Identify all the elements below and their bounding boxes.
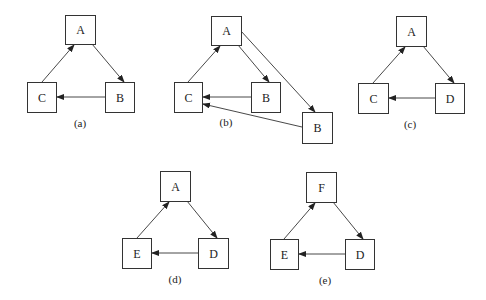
- edge-a-to-b: [238, 45, 269, 82]
- node-label: C: [184, 91, 192, 105]
- node-d: D: [346, 240, 375, 270]
- node-b: B: [303, 113, 333, 144]
- edge-a-to-d: [423, 46, 454, 83]
- node-c: C: [359, 84, 389, 114]
- node-d: D: [436, 84, 465, 114]
- diagram-a: ACB(a): [28, 16, 135, 131]
- diagram-canvas: ACB(a)ACBB(b)ACD(c)AED(d)FED(e): [0, 0, 486, 300]
- diagram-caption: (e): [319, 274, 332, 287]
- node-label: E: [281, 248, 288, 262]
- node-e: E: [271, 240, 299, 270]
- node-a: A: [66, 16, 96, 45]
- node-c: C: [175, 83, 203, 113]
- node-label: D: [446, 92, 455, 106]
- node-label: A: [222, 24, 231, 38]
- node-a: A: [397, 17, 427, 47]
- node-d: D: [199, 239, 229, 269]
- node-label: A: [171, 180, 180, 194]
- edge-c-to-a: [42, 45, 74, 82]
- node-label: B: [116, 91, 124, 105]
- diagrams-layer: ACB(a)ACBB(b)ACD(c)AED(d)FED(e): [28, 16, 465, 288]
- node-b: B: [106, 83, 135, 113]
- node-label: E: [133, 247, 140, 261]
- node-b: B: [252, 83, 281, 113]
- diagram-caption: (c): [404, 118, 417, 131]
- node-e: E: [123, 239, 152, 269]
- node-label: D: [356, 248, 365, 262]
- diagram-e: FED(e): [271, 173, 375, 288]
- node-label: B: [262, 91, 270, 105]
- diagram-caption: (a): [74, 117, 87, 130]
- node-label: A: [407, 25, 416, 39]
- node-label: C: [369, 92, 377, 106]
- edge-a-to-d: [187, 201, 217, 238]
- node-label: F: [318, 181, 325, 195]
- node-a: A: [212, 17, 242, 46]
- edge-a-to-b: [92, 44, 124, 82]
- node-a: A: [161, 172, 191, 202]
- diagram-b: ACBB(b): [175, 17, 333, 144]
- edge-e-to-a: [137, 202, 169, 238]
- node-c: C: [28, 83, 57, 113]
- edge-f-to-d: [333, 202, 363, 239]
- node-label: B: [313, 121, 321, 135]
- diagram-caption: (d): [169, 273, 182, 286]
- node-label: A: [76, 23, 85, 37]
- diagram-caption: (b): [220, 116, 233, 129]
- node-f: F: [307, 173, 337, 203]
- diagram-d: AED(d): [123, 172, 229, 287]
- edge-c-to-a: [188, 46, 220, 82]
- diagram-c: ACD(c): [359, 17, 465, 132]
- node-label: C: [38, 91, 46, 105]
- edge-c-to-a: [373, 47, 405, 83]
- node-label: D: [209, 247, 218, 261]
- edge-e-to-f: [284, 203, 315, 239]
